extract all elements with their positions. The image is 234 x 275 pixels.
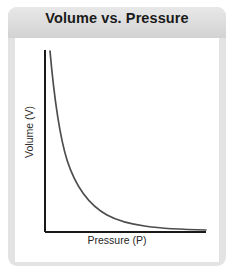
chart-title: Volume vs. Pressure: [8, 10, 226, 26]
x-axis-label: Pressure (P): [15, 234, 219, 246]
plot-area: Volume (V) Pressure (P): [15, 38, 219, 262]
chart-figure: Volume vs. Pressure Volume (V) Pressure …: [0, 0, 234, 275]
plot-svg: [15, 38, 219, 262]
data-curve: [50, 51, 206, 230]
y-axis-label: Volume (V): [23, 82, 35, 182]
